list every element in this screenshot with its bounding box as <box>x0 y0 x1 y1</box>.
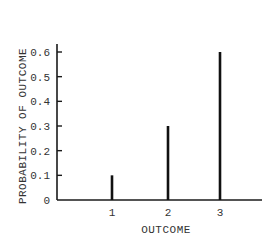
y-tick-label: 0.5 <box>30 72 50 84</box>
y-tick-label: 0.3 <box>30 121 50 133</box>
y-tick-label: 0.4 <box>30 96 50 108</box>
x-axis-title: OUTCOME <box>141 224 191 236</box>
x-tick-label: 3 <box>217 207 224 219</box>
y-tick-label: 0 <box>43 195 50 207</box>
x-axis: 123 <box>57 200 262 219</box>
y-axis: 00.10.20.30.40.50.6 <box>30 44 62 207</box>
probability-chart: 00.10.20.30.40.50.6 123 PROBABILITY OF O… <box>0 0 273 248</box>
y-axis-title: PROBABILITY OF OUTCOME <box>17 48 29 204</box>
y-tick-label: 0.2 <box>30 146 50 158</box>
x-tick-label: 1 <box>109 207 116 219</box>
y-tick-label: 0.1 <box>30 170 50 182</box>
x-tick-label: 2 <box>165 207 172 219</box>
stem-bars <box>112 52 220 200</box>
y-tick-label: 0.6 <box>30 47 50 59</box>
